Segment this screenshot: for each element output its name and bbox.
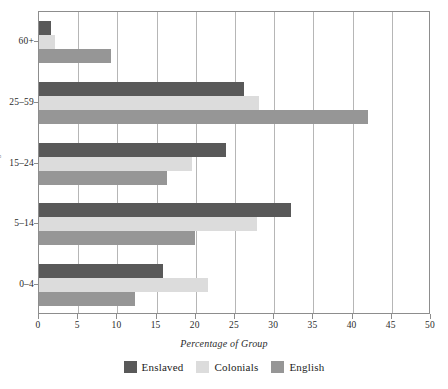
x-tick-label: 15 <box>151 320 161 330</box>
x-tick-label: 50 <box>425 320 435 330</box>
x-tick-mark <box>234 314 235 319</box>
x-tick-label: 40 <box>347 320 357 330</box>
bar-english-25_59 <box>39 110 368 124</box>
y-tick-label: 15–24 <box>0 158 34 168</box>
x-tick-mark <box>116 314 117 319</box>
bar-chart: Age 0–45–1415–2425–5960+ 051015202530354… <box>0 0 448 389</box>
x-tick-label: 30 <box>268 320 278 330</box>
x-tick-mark <box>352 314 353 319</box>
x-tick-label: 5 <box>75 320 80 330</box>
bar-enslaved-0_4 <box>39 264 163 278</box>
x-tick-label: 10 <box>111 320 121 330</box>
legend-item-english[interactable]: English <box>271 361 324 373</box>
bar-colonials-25_59 <box>39 96 259 110</box>
bars-layer <box>39 12 429 313</box>
x-axis-labels: 05101520253035404550 <box>38 320 430 334</box>
bar-colonials-5_14 <box>39 217 257 231</box>
legend-swatch-icon <box>196 361 209 373</box>
legend-label: Colonials <box>214 361 258 373</box>
legend-label: English <box>289 361 324 373</box>
bar-enslaved-60+ <box>39 21 51 35</box>
x-tick-mark <box>156 314 157 319</box>
y-tick-label: 5–14 <box>0 218 34 228</box>
bar-colonials-0_4 <box>39 278 208 292</box>
bar-enslaved-25_59 <box>39 82 244 96</box>
legend-item-enslaved[interactable]: Enslaved <box>124 361 184 373</box>
legend-item-colonials[interactable]: Colonials <box>196 361 258 373</box>
legend: EnslavedColonialsEnglish <box>0 361 448 373</box>
x-tick-mark <box>430 314 431 319</box>
x-tick-mark <box>195 314 196 319</box>
bar-english-0_4 <box>39 292 135 306</box>
legend-swatch-icon <box>271 361 284 373</box>
bar-english-60+ <box>39 49 111 63</box>
x-axis-title: Percentage of Group <box>0 338 448 349</box>
x-tick-mark <box>38 314 39 319</box>
x-tick-label: 0 <box>36 320 41 330</box>
y-axis: 0–45–1415–2425–5960+ <box>0 11 34 314</box>
bar-enslaved-5_14 <box>39 203 291 217</box>
x-tick-mark <box>312 314 313 319</box>
x-tick-label: 20 <box>190 320 200 330</box>
y-tick-label: 0–4 <box>0 279 34 289</box>
y-tick-label: 60+ <box>0 36 34 46</box>
legend-label: Enslaved <box>142 361 184 373</box>
plot-area <box>38 11 430 314</box>
x-tick-label: 35 <box>307 320 317 330</box>
legend-swatch-icon <box>124 361 137 373</box>
x-tick-label: 25 <box>229 320 239 330</box>
bar-colonials-60+ <box>39 35 55 49</box>
x-tick-mark <box>273 314 274 319</box>
y-tick-label: 25–59 <box>0 97 34 107</box>
bar-colonials-15_24 <box>39 157 192 171</box>
bar-english-5_14 <box>39 231 195 245</box>
x-tick-mark <box>391 314 392 319</box>
x-tick-label: 45 <box>386 320 396 330</box>
bar-english-15_24 <box>39 171 167 185</box>
x-tick-mark <box>77 314 78 319</box>
bar-enslaved-15_24 <box>39 143 226 157</box>
